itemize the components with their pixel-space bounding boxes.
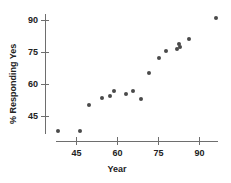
data-point <box>187 37 191 41</box>
data-point <box>131 89 135 93</box>
data-point <box>124 92 128 96</box>
data-point <box>87 103 91 107</box>
data-points-layer <box>0 0 231 183</box>
data-point <box>108 94 112 98</box>
data-point <box>112 89 116 93</box>
data-point <box>139 97 143 101</box>
data-point <box>78 129 82 133</box>
data-point <box>214 16 218 20</box>
data-point <box>157 56 161 60</box>
data-point <box>56 129 60 133</box>
data-point <box>100 96 104 100</box>
scatter-chart: 90 75 60 45 45 60 75 90 Year % Respondin… <box>0 0 231 183</box>
data-point <box>164 49 168 53</box>
data-point <box>147 71 151 75</box>
